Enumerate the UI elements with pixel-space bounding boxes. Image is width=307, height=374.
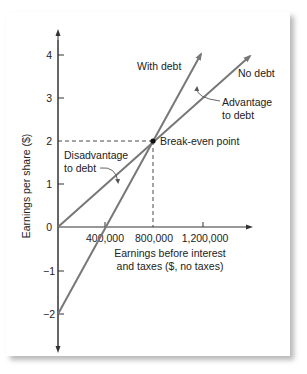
- x-tick-400000: 400,000: [86, 232, 124, 244]
- disadvantage-label-line2: to debt: [64, 162, 96, 174]
- y-tick-neg2: −2: [43, 308, 55, 320]
- y-tick-1: 1: [46, 178, 52, 190]
- break-even-label: Break-even point: [160, 135, 239, 147]
- y-tick-0: 0: [46, 221, 52, 233]
- disadvantage-label-line1: Disadvantage: [64, 149, 128, 161]
- x-tick-800000: 800,000: [135, 232, 173, 244]
- advantage-label-line2: to debt: [222, 109, 254, 121]
- x-axis-title-line2: and taxes ($, no taxes): [117, 260, 224, 272]
- y-axis-title: Earnings per share ($): [20, 134, 32, 238]
- series-with-debt: [58, 54, 201, 314]
- y-tick-2: 2: [46, 135, 52, 147]
- y-ticks: [58, 55, 64, 314]
- y-tick-neg1: −1: [43, 265, 55, 277]
- with-debt-label: With debt: [137, 60, 181, 72]
- x-tick-1200000: 1,200,000: [182, 232, 229, 244]
- x-ticks: [105, 222, 203, 227]
- break-even-point-marker: [150, 138, 155, 143]
- no-debt-label: No debt: [238, 67, 275, 79]
- eps-ebit-chart: 4 3 2 1 0 −1 −2 400,000 800,000 1,200,00…: [0, 0, 307, 374]
- y-tick-4: 4: [46, 49, 52, 61]
- x-axis-title-line1: Earnings before interest: [114, 247, 226, 259]
- advantage-label-line1: Advantage: [222, 96, 272, 108]
- y-tick-3: 3: [46, 92, 52, 104]
